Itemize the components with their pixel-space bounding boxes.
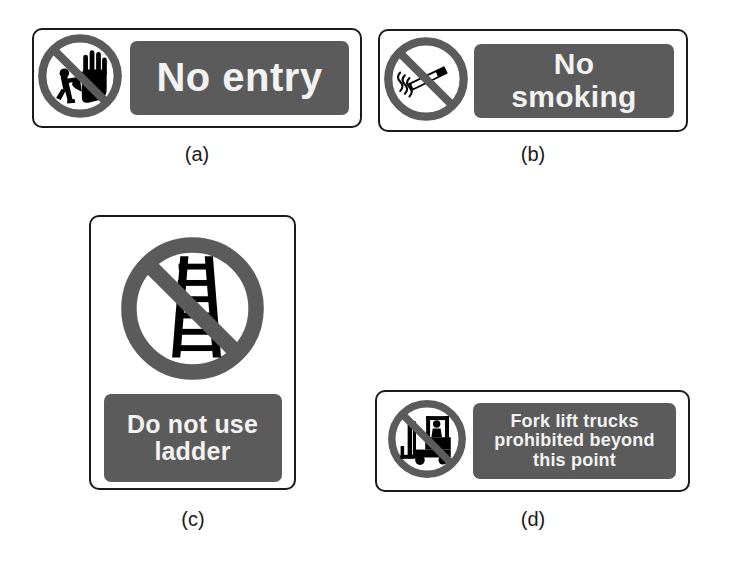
sign-text-line: this point bbox=[533, 450, 616, 470]
no-ladder-pictogram bbox=[111, 227, 274, 394]
sign-text-block: No smoking bbox=[505, 48, 642, 113]
prohibition-signs-figure: No entry (a) bbox=[0, 0, 740, 567]
no-entry-pictogram bbox=[34, 30, 126, 126]
sign-text-line: No bbox=[554, 47, 595, 80]
sign-text-line: prohibited beyond bbox=[494, 430, 654, 450]
caption-a: (a) bbox=[147, 143, 247, 166]
caption-d: (d) bbox=[483, 508, 583, 531]
sign-text-line: ladder bbox=[154, 437, 230, 465]
sign-no-ladder: Do not use ladder bbox=[89, 215, 296, 490]
sign-text-line: Fork lift trucks bbox=[510, 411, 638, 431]
sign-text-block: Fork lift trucks prohibited beyond this … bbox=[488, 412, 660, 470]
sign-no-entry: No entry bbox=[32, 28, 362, 128]
sign-text-line: Do not use bbox=[127, 410, 258, 438]
sign-text-panel-no-entry: No entry bbox=[130, 41, 349, 115]
no-smoking-pictogram bbox=[380, 33, 472, 129]
sign-no-forklift: Fork lift trucks prohibited beyond this … bbox=[375, 390, 690, 492]
sign-text-panel-no-smoking: No smoking bbox=[474, 44, 674, 118]
caption-c: (c) bbox=[143, 508, 243, 531]
sign-text-block: Do not use ladder bbox=[121, 411, 264, 465]
caption-b: (b) bbox=[483, 143, 583, 166]
sign-text-line: No entry bbox=[150, 56, 328, 99]
sign-text-panel-no-ladder: Do not use ladder bbox=[104, 394, 282, 482]
sign-no-smoking: No smoking bbox=[378, 29, 688, 132]
sign-text-panel-no-forklift: Fork lift trucks prohibited beyond this … bbox=[473, 403, 676, 479]
sign-text-line: smoking bbox=[511, 80, 636, 113]
no-forklift-pictogram bbox=[383, 395, 471, 487]
